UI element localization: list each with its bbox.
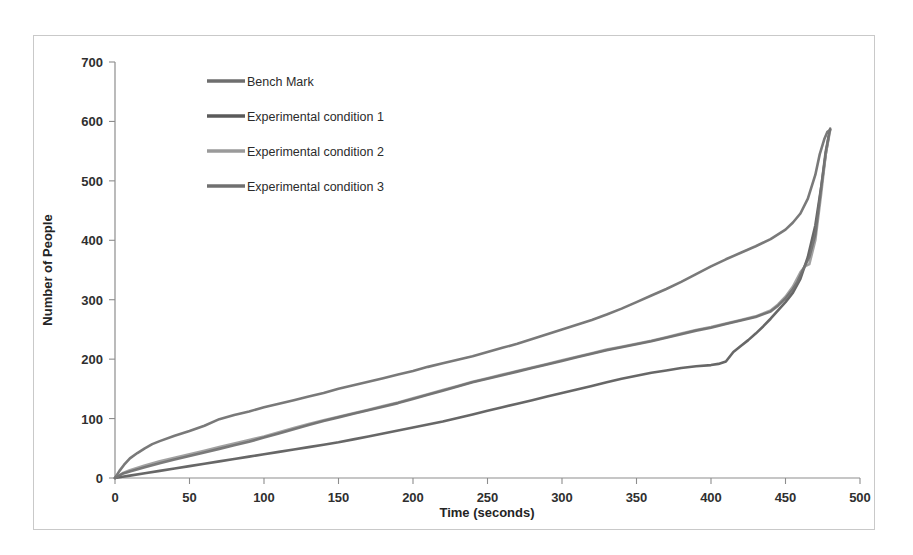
x-tick-label: 50 xyxy=(182,490,196,505)
x-axis: 050100150200250300350400450500 xyxy=(111,478,870,505)
series-layer xyxy=(115,129,830,478)
legend-label: Experimental condition 1 xyxy=(247,110,384,124)
x-tick-label: 150 xyxy=(328,490,350,505)
legend-label: Experimental condition 2 xyxy=(247,145,384,159)
series-line xyxy=(115,130,830,478)
y-tick-label: 300 xyxy=(81,293,103,308)
line-chart: 0100200300400500600700 05010015020025030… xyxy=(0,0,913,555)
y-tick-label: 400 xyxy=(81,233,103,248)
x-tick-label: 200 xyxy=(402,490,424,505)
x-tick-label: 300 xyxy=(551,490,573,505)
y-axis-title: Number of People xyxy=(40,214,55,325)
x-tick-label: 350 xyxy=(626,490,648,505)
x-tick-label: 400 xyxy=(700,490,722,505)
y-tick-label: 200 xyxy=(81,352,103,367)
legend-label: Bench Mark xyxy=(247,75,314,89)
x-tick-label: 0 xyxy=(111,490,118,505)
y-tick-label: 100 xyxy=(81,412,103,427)
y-tick-label: 700 xyxy=(81,55,103,70)
y-tick-label: 500 xyxy=(81,174,103,189)
y-axis: 0100200300400500600700 xyxy=(81,55,115,486)
y-tick-label: 600 xyxy=(81,114,103,129)
series-line xyxy=(115,129,830,478)
x-axis-title: Time (seconds) xyxy=(439,505,534,520)
x-tick-label: 500 xyxy=(849,490,871,505)
legend-label: Experimental condition 3 xyxy=(247,180,384,194)
x-tick-label: 250 xyxy=(477,490,499,505)
y-tick-label: 0 xyxy=(96,471,103,486)
chart-legend: Bench MarkExperimental condition 1Experi… xyxy=(207,75,384,194)
x-tick-label: 100 xyxy=(253,490,275,505)
x-tick-label: 450 xyxy=(775,490,797,505)
series-line xyxy=(115,130,830,478)
